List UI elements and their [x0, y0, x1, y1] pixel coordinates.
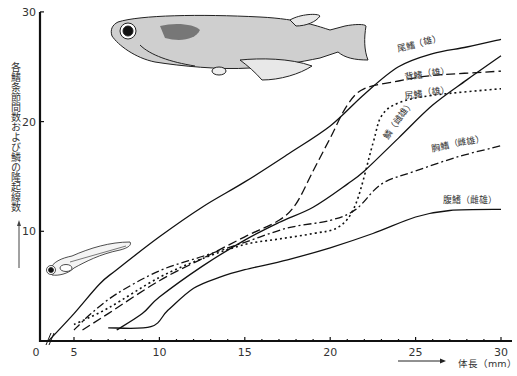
series-line-2	[74, 89, 501, 325]
series-line-0	[48, 39, 501, 341]
x-axis-arrow-icon	[398, 359, 446, 364]
y-axis-arrow-icon	[17, 220, 21, 268]
series-label: 尻鰭（雄）	[404, 84, 450, 101]
x-tick-label: 25	[409, 346, 423, 359]
y-tick-label: 20	[22, 116, 36, 129]
series-line-5	[108, 209, 501, 328]
x-tick-label: 20	[323, 346, 337, 359]
line-chart: 051015202530102030 尾鰭（雄）背鰭（雄）尻鰭（雄）鱗（雌雄）胸…	[0, 0, 517, 376]
y-tick-label: 30	[22, 6, 36, 19]
y-tick-label: 10	[22, 225, 36, 238]
series-line-3	[117, 56, 501, 330]
series-labels: 尾鰭（雄）背鰭（雄）尻鰭（雄）鱗（雌雄）胸鰭（雌雄）腹鰭（雌雄）	[381, 32, 497, 205]
x-tick-label: 5	[71, 346, 78, 359]
series-label: 尾鰭（雄）	[396, 32, 442, 54]
x-tick-label: 15	[238, 346, 252, 359]
series-line-1	[83, 71, 502, 330]
adult-fish-illustration	[111, 14, 368, 80]
series-lines	[48, 39, 501, 341]
x-tick-label: 10	[152, 346, 166, 359]
larva-illustration	[47, 242, 131, 275]
series-label: 背鰭（雄）	[404, 65, 450, 82]
series-label: 胸鰭（雌雄）	[430, 132, 485, 154]
x-tick-label: 0	[33, 346, 40, 359]
series-label: 腹鰭（雌雄）	[443, 194, 497, 205]
y-axis-label: 各鰭条節間数および鱗の隆起線数	[8, 62, 20, 212]
series-line-4	[74, 146, 501, 330]
x-axis-label: 体長（mm）	[458, 356, 517, 370]
series-label: 鱗（雌雄）	[381, 98, 416, 141]
